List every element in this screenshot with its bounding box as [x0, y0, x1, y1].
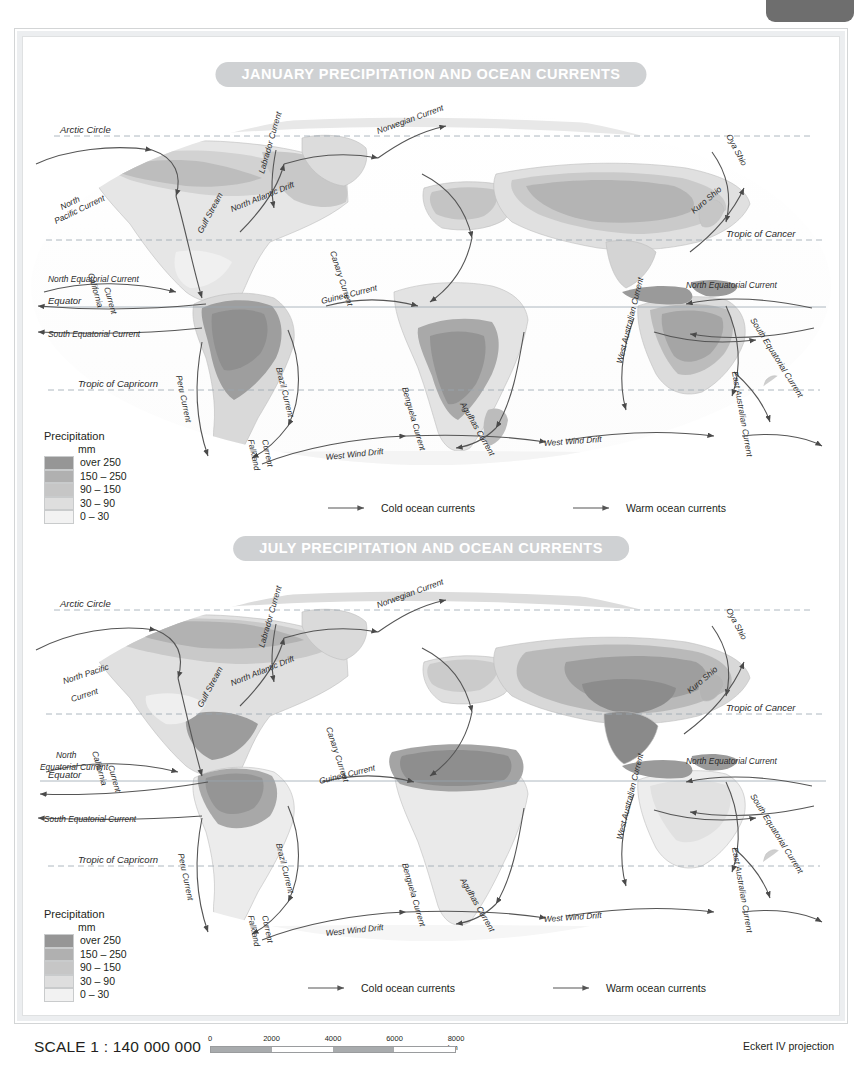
label-arctic-circle: Arctic Circle	[59, 124, 111, 135]
current-label: North Equatorial Current	[48, 274, 139, 284]
current-label: South Equatorial Current	[44, 814, 137, 824]
legend-swatch-30-90	[44, 975, 74, 989]
legend-label: 30 – 90	[80, 975, 115, 989]
legend-label: 150 – 250	[80, 470, 127, 484]
current-label: North	[56, 750, 77, 760]
legend-unit: mm	[78, 921, 127, 933]
current-label: Equatorial Current	[40, 762, 109, 772]
cold-current-arrow-icon	[306, 983, 352, 993]
label-tropic-capricorn: Tropic of Capricorn	[78, 854, 158, 865]
legend-swatch-over-250	[44, 456, 74, 470]
scale-bar-segments	[210, 1046, 456, 1053]
label-equator: Equator	[48, 295, 82, 306]
warm-current-arrow-icon	[571, 503, 617, 513]
legend-row: over 250	[44, 934, 127, 948]
warm-current-key: Warm ocean currents	[551, 982, 706, 994]
legend-swatch-150-250	[44, 470, 74, 484]
legend-row: 90 – 150	[44, 483, 127, 497]
scale-tick: 2000	[263, 1034, 280, 1043]
legend-swatch-90-150	[44, 483, 74, 497]
label-tropic-capricorn: Tropic of Capricorn	[78, 378, 158, 389]
cold-current-label: Cold ocean currents	[361, 982, 455, 994]
cold-current-key: Cold ocean currents	[306, 982, 455, 994]
legend-row: 0 – 30	[44, 510, 127, 524]
current-label: Oya Shio	[724, 606, 749, 641]
precipitation-legend-july: Precipitation mm over 250 150 – 250 90 –…	[44, 908, 127, 1002]
legend-unit: mm	[78, 443, 127, 455]
legend-row: 30 – 90	[44, 975, 127, 989]
ocean-current-key-january: Cold ocean currents Warm ocean currents	[326, 502, 726, 514]
legend-swatch-150-250	[44, 948, 74, 962]
legend-swatch-over-250	[44, 934, 74, 948]
legend-title: Precipitation	[44, 430, 127, 442]
legend-row: 90 – 150	[44, 961, 127, 975]
cold-current-arrow-icon	[326, 503, 372, 513]
legend-row: over 250	[44, 456, 127, 470]
map-title-july: JULY PRECIPITATION AND OCEAN CURRENTS	[233, 536, 629, 561]
current-label: Oya Shio	[724, 132, 749, 167]
scale-segment	[272, 1047, 333, 1052]
scale-tick: 6000	[386, 1034, 403, 1043]
legend-swatch-0-30	[44, 510, 74, 524]
legend-label: 90 – 150	[80, 483, 121, 497]
map-panel-july: JULY PRECIPITATION AND OCEAN CURRENTS	[26, 532, 836, 1014]
world-map-july[interactable]: Arctic Circle Tropic of Cancer Equator T…	[26, 566, 836, 958]
page-number-tab	[766, 0, 854, 22]
map-panel-january: JANUARY PRECIPITATION AND OCEAN CURRENTS	[26, 50, 836, 530]
legend-row: 150 – 250	[44, 470, 127, 484]
legend-label: over 250	[80, 934, 121, 948]
legend-label: 0 – 30	[80, 510, 109, 524]
legend-label: 90 – 150	[80, 961, 121, 975]
world-map-january[interactable]: Arctic Circle Tropic of Cancer Equator T…	[26, 92, 836, 482]
scale-segment	[333, 1047, 394, 1052]
projection-label: Eckert IV projection	[743, 1040, 834, 1052]
label-arctic-circle: Arctic Circle	[59, 598, 111, 609]
current-label: North Equatorial Current	[686, 280, 777, 290]
current-label: South Equatorial Current	[48, 329, 141, 339]
warm-current-label: Warm ocean currents	[626, 502, 726, 514]
legend-swatch-30-90	[44, 497, 74, 511]
ocean-current-key-july: Cold ocean currents Warm ocean currents	[306, 982, 706, 994]
cold-current-key: Cold ocean currents	[326, 502, 475, 514]
scale-segment	[211, 1047, 272, 1052]
page-footer: SCALE 1 : 140 000 000 0 2000 4000 6000 8…	[34, 1034, 834, 1068]
scale-bar: 0 2000 4000 6000 8000 km	[210, 1034, 456, 1053]
legend-label: over 250	[80, 456, 121, 470]
legend-swatch-90-150	[44, 961, 74, 975]
label-tropic-cancer: Tropic of Cancer	[726, 702, 796, 713]
warm-current-label: Warm ocean currents	[606, 982, 706, 994]
legend-label: 0 – 30	[80, 988, 109, 1002]
warm-current-arrow-icon	[551, 983, 597, 993]
precipitation-legend-january: Precipitation mm over 250 150 – 250 90 –…	[44, 430, 127, 524]
scale-bar-ticks: 0 2000 4000 6000 8000 km	[210, 1034, 456, 1046]
legend-row: 30 – 90	[44, 497, 127, 511]
legend-row: 150 – 250	[44, 948, 127, 962]
atlas-page: JANUARY PRECIPITATION AND OCEAN CURRENTS	[0, 0, 862, 1074]
scale-statement: SCALE 1 : 140 000 000	[34, 1038, 201, 1056]
legend-label: 150 – 250	[80, 948, 127, 962]
legend-row: 0 – 30	[44, 988, 127, 1002]
scale-segment	[394, 1047, 455, 1052]
scale-tick: 0	[208, 1034, 212, 1043]
cold-current-label: Cold ocean currents	[381, 502, 475, 514]
legend-swatch-0-30	[44, 988, 74, 1002]
current-label: North Equatorial Current	[686, 756, 777, 766]
label-tropic-cancer: Tropic of Cancer	[726, 228, 796, 239]
map-title-january: JANUARY PRECIPITATION AND OCEAN CURRENTS	[215, 62, 646, 87]
scale-tick: 4000	[325, 1034, 342, 1043]
legend-title: Precipitation	[44, 908, 127, 920]
legend-label: 30 – 90	[80, 497, 115, 511]
warm-current-key: Warm ocean currents	[571, 502, 726, 514]
